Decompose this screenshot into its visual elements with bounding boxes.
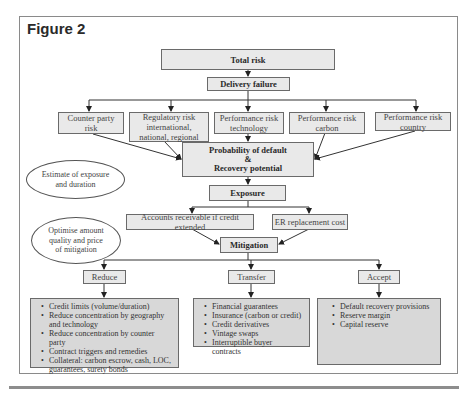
risk-label: Counter party risk bbox=[65, 113, 117, 133]
list-item: Vintage swaps bbox=[204, 329, 303, 338]
list-item: Default recovery provisions bbox=[332, 302, 434, 311]
risk-label: Performance risk carbon bbox=[295, 113, 359, 133]
transfer-box: Transfer bbox=[228, 270, 275, 284]
list-item: Reduce concentration by counter party bbox=[41, 329, 172, 347]
er-replacement-box: ER replacement cost bbox=[272, 214, 348, 230]
risk-counter-party-box: Counter party risk bbox=[58, 112, 124, 134]
accept-list: Default recovery provisions Reserve marg… bbox=[317, 298, 441, 365]
list-item: Contract triggers and remedies bbox=[41, 347, 172, 356]
risk-regulatory-box: Regulatory risk international, national,… bbox=[129, 112, 209, 142]
exposure-item-label: ER replacement cost bbox=[275, 217, 345, 227]
strategy-label: Transfer bbox=[237, 272, 266, 282]
estimate-text: Estimate of exposure and duration bbox=[41, 170, 111, 189]
estimate-annotation: Estimate of exposure and duration bbox=[26, 160, 125, 199]
accounts-receivable-box: Accounts receivable if credit extended bbox=[126, 214, 254, 230]
list-item: Reserve margin bbox=[332, 311, 434, 320]
probability-box: Probability of default & Recovery potent… bbox=[182, 142, 314, 177]
delivery-failure-box: Delivery failure bbox=[207, 77, 290, 91]
list-item: Credit limits (volume/duration) bbox=[41, 302, 172, 311]
list-item: Collateral: carbon escrow, cash, LOC, gu… bbox=[41, 356, 172, 374]
risk-performance-country-box: Performance risk country bbox=[375, 112, 451, 131]
optimise-annotation: Optimise amount quality and price of mit… bbox=[31, 217, 121, 264]
mitigation-box: Mitigation bbox=[220, 237, 278, 253]
list-item: Credit derivatives bbox=[204, 320, 303, 329]
exposure-label: Exposure bbox=[230, 188, 264, 198]
exposure-box: Exposure bbox=[209, 185, 286, 201]
bottom-rule bbox=[9, 386, 459, 389]
accept-box: Accept bbox=[358, 270, 400, 284]
total-risk-box: Total risk bbox=[161, 49, 335, 70]
risk-label: Regulatory risk international, national,… bbox=[131, 112, 207, 142]
list-item: Reduce concentration by geography and te… bbox=[41, 311, 172, 329]
list-item: Financial guarantees bbox=[204, 302, 303, 311]
risk-label: Performance risk country bbox=[381, 112, 445, 132]
strategy-label: Reduce bbox=[92, 272, 118, 282]
exposure-item-label: Accounts receivable if credit extended bbox=[127, 212, 253, 232]
reduce-box: Reduce bbox=[83, 270, 126, 284]
transfer-list: Financial guarantees Insurance (carbon o… bbox=[193, 298, 310, 347]
risk-label: Performance risk technology bbox=[217, 113, 281, 133]
list-item: Insurance (carbon or credit) bbox=[204, 311, 303, 320]
optimise-text: Optimise amount quality and price of mit… bbox=[45, 226, 107, 255]
reduce-list: Credit limits (volume/duration) Reduce c… bbox=[30, 298, 179, 368]
list-item: Capital reserve bbox=[332, 320, 434, 329]
risk-performance-technology-box: Performance risk technology bbox=[214, 112, 284, 134]
delivery-failure-label: Delivery failure bbox=[220, 79, 277, 89]
total-risk-label: Total risk bbox=[231, 55, 266, 65]
strategy-label: Accept bbox=[367, 272, 391, 282]
mitigation-label: Mitigation bbox=[230, 240, 268, 250]
list-item: Interruptible buyer contracts bbox=[204, 338, 303, 356]
risk-performance-carbon-box: Performance risk carbon bbox=[289, 112, 365, 134]
probability-line3: Recovery potential bbox=[214, 164, 282, 173]
